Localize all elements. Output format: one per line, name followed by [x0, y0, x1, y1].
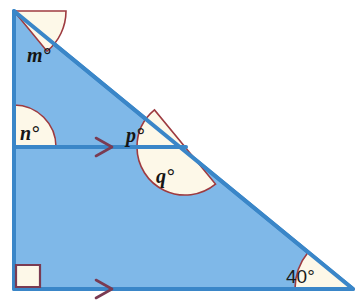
- right-angle-marker: [16, 265, 40, 287]
- geometry-figure: m° n° p° q° 40°: [0, 0, 363, 304]
- angle-label-40: 40°: [286, 266, 315, 287]
- angle-label-n: n°: [20, 122, 39, 144]
- angle-label-m: m°: [27, 44, 51, 66]
- angle-label-p: p°: [124, 124, 144, 147]
- angle-label-q: q°: [156, 165, 174, 188]
- geometry-diagram-svg: m° n° p° q° 40°: [0, 0, 363, 304]
